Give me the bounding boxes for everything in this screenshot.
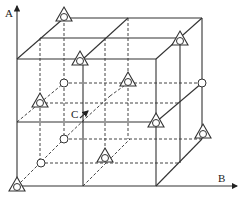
lattice-svg: A B C bbox=[0, 0, 244, 205]
triangle-site bbox=[9, 177, 25, 191]
circle-sites bbox=[37, 79, 206, 167]
triangle-site bbox=[56, 7, 72, 21]
triangle-site bbox=[72, 51, 88, 65]
circle-site bbox=[60, 79, 68, 87]
triangle-site bbox=[148, 113, 164, 127]
axis-a-label: A bbox=[5, 7, 13, 19]
circle-site bbox=[37, 159, 45, 167]
axis-c-label: C bbox=[71, 108, 78, 120]
triangle-site bbox=[120, 72, 136, 86]
triangle-site bbox=[97, 148, 113, 162]
circle-site bbox=[198, 79, 206, 87]
lattice-diagram: A B C bbox=[0, 0, 244, 205]
axis-b-label: B bbox=[218, 172, 225, 184]
triangle-site bbox=[32, 93, 48, 107]
circle-site bbox=[60, 135, 68, 143]
triangle-site bbox=[195, 124, 211, 138]
